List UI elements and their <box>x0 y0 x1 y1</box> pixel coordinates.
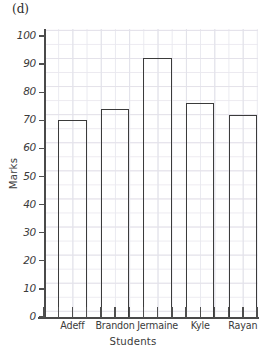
bar-adeff <box>58 120 86 317</box>
x-axis-tick <box>72 307 74 318</box>
y-axis-tick <box>39 92 45 93</box>
y-axis-tick-label: 90 <box>2 57 36 69</box>
y-axis-tick-label: 0 <box>2 310 36 322</box>
y-axis-tick <box>39 260 45 261</box>
y-axis-tick-label: 100 <box>2 29 36 41</box>
y-axis-tick <box>39 148 45 149</box>
bar-brandon <box>101 109 129 317</box>
panel-label: (d) <box>12 2 29 16</box>
x-axis-label-rayan: Rayan <box>215 320 266 331</box>
bar-jermaine <box>143 58 171 317</box>
x-axis-tick <box>157 307 159 318</box>
y-axis-tick-label: 80 <box>2 85 36 97</box>
y-axis-tick-label: 10 <box>2 282 36 294</box>
y-axis-tick <box>39 176 45 177</box>
x-axis-tick <box>58 307 60 318</box>
bar-kyle <box>186 103 214 317</box>
x-axis-tick <box>200 307 202 318</box>
x-axis-tick <box>185 307 187 318</box>
x-axis-tick <box>86 307 88 318</box>
x-axis-tick <box>143 307 145 318</box>
x-axis-tick <box>256 307 258 318</box>
y-axis-tick <box>39 232 45 233</box>
y-axis-tick <box>39 204 45 205</box>
x-axis-title: Students <box>0 336 266 347</box>
y-axis-tick <box>39 120 45 121</box>
x-axis-tick <box>214 307 216 318</box>
y-axis-tick <box>39 63 45 64</box>
plot-area <box>44 29 258 317</box>
x-axis-tick <box>171 307 173 318</box>
bar-rayan <box>229 115 257 317</box>
x-axis-tick <box>228 307 230 318</box>
bar-chart-figure: (d) 0102030405060708090100 AdeffBrandonJ… <box>0 0 266 352</box>
x-axis-tick <box>242 307 244 318</box>
y-axis-line <box>44 29 46 319</box>
x-axis-tick <box>43 307 45 318</box>
y-axis-tick <box>39 35 45 36</box>
x-axis-tick <box>129 307 131 318</box>
y-axis-tick-label: 70 <box>2 113 36 125</box>
y-axis-tick-label: 30 <box>2 226 36 238</box>
x-axis-tick <box>100 307 102 318</box>
x-axis-tick <box>114 307 116 318</box>
y-axis-tick-label: 20 <box>2 254 36 266</box>
y-axis-tick <box>39 288 45 289</box>
y-axis-title: Marks <box>8 144 19 204</box>
